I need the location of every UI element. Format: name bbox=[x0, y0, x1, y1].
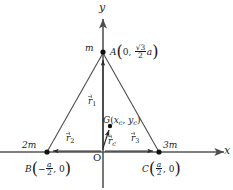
y-axis-label: y bbox=[99, 2, 105, 13]
vector-r1-overbar-icon bbox=[88, 94, 92, 98]
vector-rc-overbar-icon bbox=[108, 134, 112, 138]
vector-r3-sub: 3 bbox=[135, 137, 139, 145]
point-b-name: B bbox=[25, 165, 32, 174]
paren-close-b: ) bbox=[65, 163, 71, 175]
point-dot-a bbox=[100, 49, 105, 54]
point-label-c: C(a2, 0) bbox=[142, 161, 181, 178]
point-label-b: B(−a2, 0) bbox=[25, 161, 71, 178]
point-b-x-fraction: a2 bbox=[46, 161, 53, 178]
mass-label-b: 2m bbox=[22, 141, 36, 150]
vector-r2-overbar-icon bbox=[66, 131, 70, 135]
comma-a: , bbox=[128, 48, 134, 57]
paren-close-a: ) bbox=[152, 46, 158, 58]
origin-label: O bbox=[93, 153, 101, 163]
paren-open-a: ( bbox=[117, 46, 123, 58]
mass-label-c: 3m bbox=[163, 141, 177, 150]
point-c-x-denominator: 2 bbox=[156, 168, 163, 177]
point-dot-c bbox=[156, 149, 161, 154]
physics-figure: y x O m 2m 3m A(0, √32a) B(−a2, 0) C(a2,… bbox=[0, 0, 233, 190]
vector-r3-label: r3 bbox=[131, 133, 139, 143]
mass-label-a: m bbox=[85, 44, 94, 53]
point-c-x-numerator: a bbox=[156, 161, 163, 169]
point-g-x-sub: c bbox=[119, 119, 123, 127]
x-axis-label: x bbox=[224, 145, 230, 156]
point-b-x-sign: − bbox=[38, 165, 46, 174]
vector-r1-label: r1 bbox=[88, 96, 96, 106]
point-g-name: G bbox=[103, 116, 110, 125]
vector-r2-sub: 2 bbox=[70, 137, 74, 145]
paren-close-g: ) bbox=[137, 116, 141, 125]
point-c-x-fraction: a2 bbox=[156, 161, 163, 178]
point-a-y-numerator: √3 bbox=[135, 44, 147, 52]
point-label-g: G(xc, yc) bbox=[103, 116, 140, 125]
paren-close-c: ) bbox=[174, 163, 180, 175]
vector-rc-label: rc bbox=[108, 136, 116, 146]
vector-r3-overbar-icon bbox=[131, 131, 135, 135]
point-g-y-sub: c bbox=[133, 119, 137, 127]
point-c-name: C bbox=[142, 165, 149, 174]
paren-open-c: ( bbox=[149, 163, 155, 175]
vector-rc-sub: c bbox=[112, 140, 116, 148]
paren-open-b: ( bbox=[32, 163, 38, 175]
point-b-x-numerator: a bbox=[46, 161, 53, 169]
vector-r1-sub: 1 bbox=[92, 100, 96, 108]
point-a-y-denominator: 2 bbox=[135, 51, 147, 60]
point-a-y-fraction: √32 bbox=[135, 44, 147, 61]
point-label-a: A(0, √32a) bbox=[110, 44, 158, 61]
point-b-x-denominator: 2 bbox=[46, 168, 53, 177]
vector-r2-label: r2 bbox=[66, 133, 74, 143]
point-dot-b bbox=[44, 149, 49, 154]
